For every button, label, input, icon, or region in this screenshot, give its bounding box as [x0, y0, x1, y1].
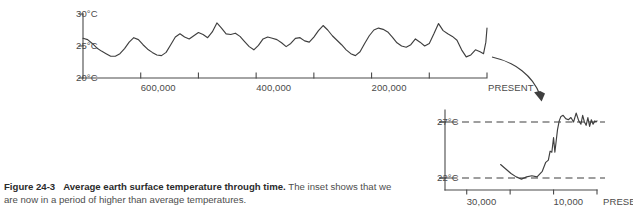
- inset-chart: [439, 110, 605, 194]
- figure-caption: Figure 24-3 Average earth surface temper…: [4, 180, 396, 206]
- figure-24-3: 20°C25°C30°C600,000400,000200,000PRESENT…: [0, 0, 633, 217]
- zoom-arrow-icon: [492, 57, 545, 102]
- inset-chart-x-axis: [445, 190, 597, 194]
- main-chart-x-axis: [83, 73, 487, 78]
- inset-reference-lines: [439, 122, 605, 178]
- caption-figure-number: Figure 24-3: [4, 181, 55, 192]
- main-temperature-line: [83, 23, 487, 57]
- caption-title: Average earth surface temperature throug…: [63, 181, 286, 192]
- inset-temperature-line: [501, 113, 597, 179]
- main-chart: [79, 14, 487, 78]
